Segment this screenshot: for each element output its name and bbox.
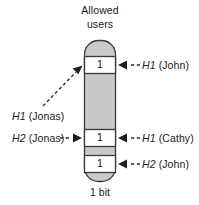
figure-caption: 1 bit xyxy=(70,186,130,198)
label-h2-jonas: H2 (Jonas) xyxy=(12,132,64,144)
label-h1-cathy-user: (Cathy) xyxy=(159,132,194,144)
label-h1-jonas-user: (Jonas) xyxy=(29,110,65,122)
label-h2-john-user: (John) xyxy=(159,158,189,170)
label-h2-jonas-user: (Jonas) xyxy=(29,132,65,144)
label-h1-jonas: H1 (Jonas) xyxy=(12,110,64,122)
cell-bottom-value: 1 xyxy=(85,157,115,169)
cell-top-value: 1 xyxy=(85,58,115,70)
bloom-filter-bit-array-figure: Allowed users 1 1 1 H1 (John) H1 (Cathy)… xyxy=(0,0,199,205)
cell-middle-value: 1 xyxy=(85,131,115,143)
figure-title-line1: Allowed xyxy=(66,4,134,16)
arrow-h1-john xyxy=(118,61,140,70)
diagram-canvas xyxy=(0,0,199,205)
label-h1-john-hash: H1 xyxy=(142,59,156,71)
figure-title-line2: users xyxy=(66,18,134,30)
arrow-h1-jonas xyxy=(43,66,83,107)
label-h1-cathy-hash: H1 xyxy=(142,132,156,144)
label-h1-jonas-hash: H1 xyxy=(12,110,26,122)
label-h2-john-hash: H2 xyxy=(142,158,156,170)
label-h1-cathy: H1 (Cathy) xyxy=(142,132,194,144)
arrow-h1-cathy xyxy=(118,134,140,143)
label-h1-john-user: (John) xyxy=(159,59,189,71)
label-h1-john: H1 (John) xyxy=(142,59,189,71)
arrow-h2-john xyxy=(118,160,140,169)
label-h2-jonas-hash: H2 xyxy=(12,132,26,144)
label-h2-john: H2 (John) xyxy=(142,158,189,170)
